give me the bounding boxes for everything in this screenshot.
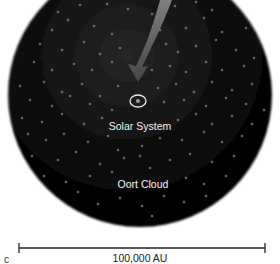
- comet-dot: [92, 24, 96, 28]
- comet-dot: [80, 82, 84, 86]
- comet-dot: [250, 82, 254, 86]
- comet-dot: [42, 174, 46, 178]
- comet-dot: [164, 42, 168, 46]
- oort-cloud-label: Oort Cloud: [118, 178, 169, 190]
- comet-dot: [98, 94, 102, 98]
- oort-cloud-diagram: Solar System Oort Cloud 100,000 AU c: [0, 0, 280, 264]
- comet-dot: [162, 194, 166, 198]
- comet-dot: [173, 4, 177, 8]
- comet-dot: [100, 116, 104, 120]
- comet-dot: [88, 174, 92, 178]
- comet-dot: [38, 42, 42, 46]
- comet-dot: [82, 122, 86, 126]
- comet-dot: [138, 154, 142, 158]
- comet-dot: [68, 94, 72, 98]
- comet-dot: [90, 68, 94, 72]
- comet-dot: [76, 190, 80, 194]
- comet-dot: [18, 84, 22, 88]
- comet-dot: [224, 96, 228, 100]
- comet-dot: [140, 144, 144, 148]
- comet-dot: [62, 132, 66, 136]
- comet-dot: [150, 68, 154, 72]
- comet-dot: [50, 28, 54, 32]
- comet-dot: [204, 104, 208, 108]
- comet-dot: [184, 70, 188, 74]
- comet-dot: [105, 2, 109, 6]
- comet-dot: [82, 40, 86, 44]
- comet-dot: [126, 7, 130, 11]
- comet-dot: [262, 108, 266, 112]
- comet-dot: [40, 120, 44, 124]
- comet-dot: [220, 68, 224, 72]
- comet-dot: [176, 118, 180, 122]
- comet-dot: [230, 88, 234, 92]
- comet-dot: [116, 148, 120, 152]
- comet-dot: [42, 80, 46, 84]
- comet-dot: [158, 136, 162, 140]
- comet-dot: [50, 68, 54, 72]
- comet-dot: [110, 170, 114, 174]
- comet-dot: [182, 200, 186, 204]
- comet-dot: [210, 122, 214, 126]
- comet-dot: [72, 62, 76, 66]
- comet-dot: [88, 102, 92, 106]
- comet-dot: [214, 38, 218, 42]
- comet-dot: [168, 158, 172, 162]
- comet-dot: [78, 3, 82, 7]
- comet-dot: [96, 202, 100, 206]
- comet-dot: [148, 166, 152, 170]
- comet-dot: [110, 60, 114, 64]
- comet-dot: [184, 26, 188, 30]
- comet-dot: [60, 112, 64, 116]
- comet-dot: [50, 104, 54, 108]
- comet-dot: [230, 114, 234, 118]
- comet-dot: [150, 214, 154, 218]
- comet-dot: [74, 150, 78, 154]
- comet-dot: [188, 152, 192, 156]
- comet-dot: [202, 16, 206, 20]
- comet-dot: [220, 140, 224, 144]
- comet-dot: [110, 108, 114, 112]
- comet-dot: [110, 32, 114, 36]
- comet-dot: [202, 130, 206, 134]
- comet-dot: [174, 82, 178, 86]
- comet-dot: [162, 100, 166, 104]
- comet-dot: [240, 134, 244, 138]
- comet-dot: [118, 46, 122, 50]
- comet-dot: [180, 138, 184, 142]
- comet-dot: [184, 176, 188, 180]
- comet-dot: [86, 140, 90, 144]
- comet-dot: [140, 204, 144, 208]
- comet-dot: [168, 64, 172, 68]
- panel-label: c: [4, 254, 9, 264]
- sun-dot-icon: [136, 99, 140, 103]
- comet-dot: [60, 90, 64, 94]
- comet-dot: [244, 26, 248, 30]
- comet-dot: [194, 44, 198, 48]
- scale-bar-label: 100,000 AU: [113, 252, 168, 264]
- comet-dot: [66, 18, 70, 22]
- comet-dot: [242, 64, 246, 68]
- comet-dot: [182, 98, 186, 102]
- comet-dot: [210, 80, 214, 84]
- comet-dot: [150, 12, 154, 16]
- comet-dot: [250, 122, 254, 126]
- comet-dot: [26, 132, 30, 136]
- comet-dot: [194, 0, 198, 4]
- comet-dot: [224, 174, 228, 178]
- comet-dot: [106, 134, 110, 138]
- comet-dot: [28, 98, 32, 102]
- comet-dot: [202, 182, 206, 186]
- comet-dot: [118, 196, 122, 200]
- comet-dot: [60, 48, 64, 52]
- comet-dot: [122, 156, 126, 160]
- comet-dot: [244, 102, 248, 106]
- oort-cloud-sphere: [8, 0, 272, 227]
- comet-dot: [44, 138, 48, 142]
- comet-dot: [232, 154, 236, 158]
- comet-dot: [204, 194, 208, 198]
- comet-dot: [20, 116, 24, 120]
- comet-dot: [156, 86, 160, 90]
- comet-dot: [56, 10, 60, 14]
- diagram-canvas: [0, 0, 280, 264]
